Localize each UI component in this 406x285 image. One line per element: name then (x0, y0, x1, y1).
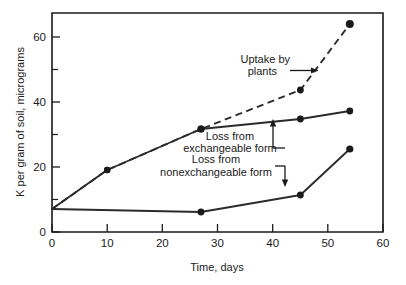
x-axis-title: Time, days (190, 261, 244, 273)
x-ticklabel-20: 20 (156, 237, 169, 249)
y-axis-ticklabels: 0 20 40 60 (33, 31, 46, 238)
x-ticklabel-30: 30 (211, 237, 224, 249)
y-ticklabel-40: 40 (33, 96, 46, 108)
y-ticklabel-60: 60 (33, 31, 46, 43)
series-exchangeable-marker (104, 167, 110, 173)
series-uptake-marker (346, 20, 354, 28)
y-ticklabel-20: 20 (33, 161, 46, 173)
chart-canvas: 0 20 40 60 0 10 20 30 40 50 60 Time, day… (0, 0, 406, 285)
annotation-loss-nonexchangeable: Loss from nonexchangeable form (160, 153, 288, 187)
series-uptake-line (52, 24, 350, 209)
x-axis-ticks (52, 224, 383, 232)
annotation-loss-exchangeable: Loss from exchangeable form (183, 119, 285, 154)
series-exchangeable-marker (346, 108, 353, 115)
x-ticklabel-0: 0 (49, 237, 55, 249)
annotation-exchangeable-line1: Loss from (206, 130, 254, 142)
series-exchangeable-marker (297, 116, 304, 123)
annotation-uptake-line1: Uptake by (240, 53, 290, 65)
x-ticklabel-40: 40 (266, 237, 279, 249)
annotation-nonexchangeable-line2: nonexchangeable form (160, 166, 272, 178)
annotation-uptake-by-plants: Uptake by plants (240, 53, 318, 77)
y-axis-ticks (52, 37, 60, 232)
series-nonexchangeable-marker (346, 145, 353, 152)
chart-figure: 0 20 40 60 0 10 20 30 40 50 60 Time, day… (0, 0, 406, 285)
annotation-nonexchangeable-line1: Loss from (192, 153, 240, 165)
x-axis-ticklabels: 0 10 20 30 40 50 60 (49, 237, 390, 249)
y-axis-title: K per gram of soil, micrograms (14, 47, 26, 197)
series-nonexchangeable-marker (297, 192, 304, 199)
series-exchangeable-marker (197, 125, 204, 132)
annotation-uptake-line2: plants (248, 65, 278, 77)
arrow-down-icon (282, 180, 288, 188)
x-ticklabel-60: 60 (377, 237, 390, 249)
series-uptake-marker (297, 87, 304, 94)
x-ticklabel-10: 10 (101, 237, 114, 249)
series-uptake-by-plants (52, 20, 354, 209)
x-ticklabel-50: 50 (321, 237, 334, 249)
series-nonexchangeable-marker (198, 209, 205, 216)
y-ticklabel-0: 0 (40, 226, 46, 238)
